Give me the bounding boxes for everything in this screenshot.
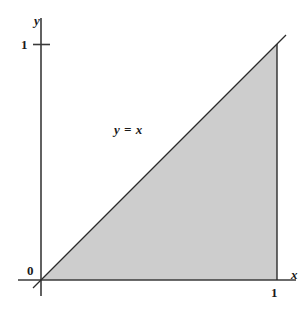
x-axis-label: x [291,268,298,281]
curve-label-y-equals-x: y = x [114,123,143,136]
y-tick-label-1: 1 [21,38,28,51]
x-tick-label-1: 1 [271,286,278,299]
y-axis-label: y [34,14,40,27]
origin-label: 0 [27,264,34,277]
figure-container: y x 1 1 0 y = x [0,0,307,314]
plot-canvas [0,0,307,314]
